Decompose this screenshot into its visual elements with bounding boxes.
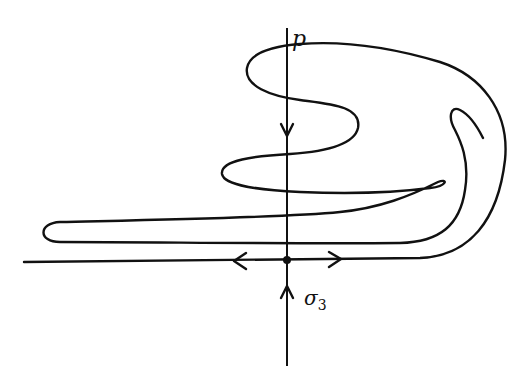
fixed-point-dot — [283, 256, 291, 264]
sigma-subscript: 3 — [318, 297, 327, 313]
label-sigma3: σ3 — [304, 286, 327, 313]
horizontal-axis — [24, 43, 506, 262]
sigma-symbol: σ — [304, 286, 318, 310]
phase-portrait — [0, 0, 531, 387]
label-p: p — [292, 26, 306, 51]
